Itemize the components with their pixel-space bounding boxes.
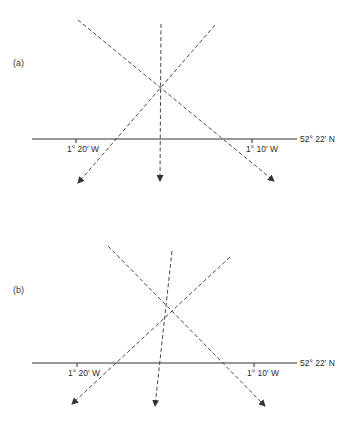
panel-a-label: (a) — [13, 58, 24, 68]
tick-label-1-10w-a: 1° 10′ W — [246, 144, 278, 154]
panel-b-label: (b) — [13, 285, 24, 295]
tick-label-1-20w-a: 1° 20′ W — [67, 144, 99, 154]
position-fix-diagram: (a) 1° 20′ W 1° 10′ W 52° 22′ N (b) 1° 2… — [0, 0, 362, 427]
bearing-line-1-b — [108, 246, 265, 406]
tick-label-1-20w-b: 1° 20′ W — [68, 368, 100, 378]
bearing-line-2-a — [160, 24, 161, 181]
panel-a: (a) 1° 20′ W 1° 10′ W 52° 22′ N — [13, 20, 335, 183]
panel-b: (b) 1° 20′ W 1° 10′ W 52° 22′ N — [13, 246, 335, 406]
latitude-label-a: 52° 22′ N — [300, 134, 335, 144]
bearing-line-3-b — [72, 257, 230, 404]
latitude-label-b: 52° 22′ N — [300, 358, 335, 368]
bearing-line-1-a — [78, 20, 274, 181]
tick-label-1-10w-b: 1° 10′ W — [247, 368, 279, 378]
bearing-line-2-b — [155, 251, 172, 406]
bearing-line-3-a — [78, 25, 215, 183]
